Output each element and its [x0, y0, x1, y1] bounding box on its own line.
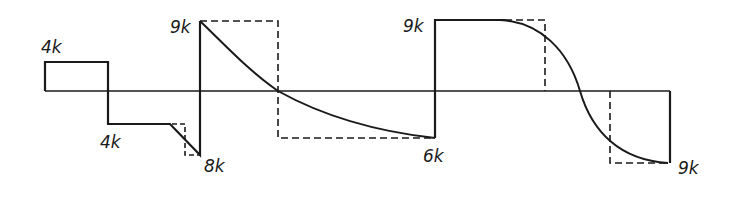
label-peak-2: 9k — [403, 16, 425, 36]
solid-step-curve — [45, 21, 200, 155]
label-first-negative: 4k — [100, 132, 122, 152]
label-low-point: 8k — [204, 156, 226, 176]
label-trough-1: 6k — [423, 146, 445, 166]
dashed-rect-2-bottom — [610, 91, 668, 163]
decay-curve-1 — [200, 21, 435, 138]
label-first-positive: 4k — [41, 37, 63, 57]
dashed-rect-2-top — [505, 20, 545, 91]
dashed-rect-1 — [200, 21, 435, 138]
label-peak-1: 9k — [170, 17, 192, 37]
solid-vertical-2 — [435, 20, 505, 138]
waveform-diagram: 4k 4k 8k 9k 6k 9k 9k — [0, 0, 733, 201]
label-trough-2: 9k — [678, 158, 700, 178]
